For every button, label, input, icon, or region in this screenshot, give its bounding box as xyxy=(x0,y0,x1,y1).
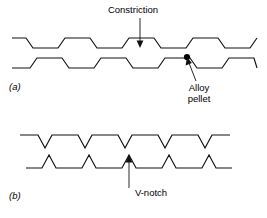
alloy-pellet-label-line1: Alloy xyxy=(189,82,210,93)
figure-background xyxy=(0,0,267,218)
v-notch-label: V-notch xyxy=(135,187,167,198)
constriction-label: Constriction xyxy=(108,4,158,15)
panel-a-letter: (a) xyxy=(9,81,21,92)
wire-constriction-figure: Constriction Alloy pellet (a) V-notch (b… xyxy=(0,0,267,218)
alloy-pellet-label-line2: pellet xyxy=(188,93,211,104)
panel-b-letter: (b) xyxy=(9,190,21,201)
